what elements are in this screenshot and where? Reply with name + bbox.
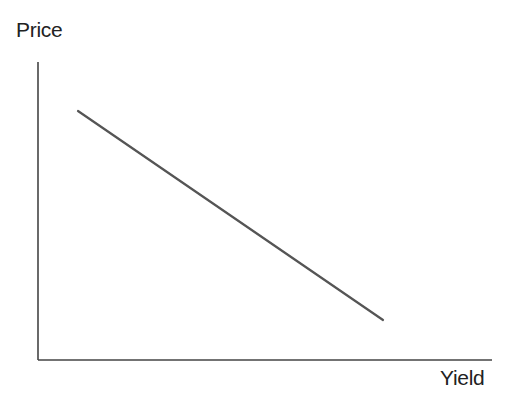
chart-plot-area <box>0 0 509 409</box>
data-series <box>78 111 383 320</box>
price-yield-line <box>78 111 383 320</box>
